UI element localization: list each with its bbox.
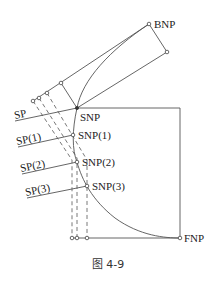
- sp1-label: SP(1): [15, 130, 43, 148]
- connector-line: [61, 83, 77, 108]
- bottom-point-2: [75, 236, 79, 240]
- snp3-label: SNP(3): [92, 180, 125, 193]
- bottom-point-1: [70, 236, 74, 240]
- upper-point-3: [45, 91, 49, 95]
- bnp-point: [147, 22, 151, 26]
- snp1-label: SNP(1): [78, 129, 111, 142]
- snp2-label: SNP(2): [82, 156, 115, 169]
- sp2-label: SP(2): [19, 157, 47, 175]
- shoulder-lower-line: [77, 52, 167, 108]
- neckline-construction-diagram: BNP SNP SNP(1) SNP(2) SNP(3) FNP SP SP(1…: [0, 0, 217, 281]
- fnp-label: FNP: [184, 232, 204, 244]
- snp-label: SNP: [80, 111, 100, 123]
- snp1-point: [71, 133, 75, 137]
- bottom-point-3: [85, 236, 89, 240]
- upper-point-1: [31, 99, 35, 103]
- sp-label: SP: [13, 107, 27, 121]
- upper-point-4: [59, 81, 63, 85]
- upper-point-2: [37, 96, 41, 100]
- shoulder-upper-line: [33, 24, 149, 101]
- bnp-label: BNP: [154, 18, 175, 30]
- figure-caption: 图 4-9: [92, 258, 124, 271]
- snp2-point: [75, 160, 79, 164]
- snp3-point: [85, 184, 89, 188]
- snp-point: [75, 106, 78, 109]
- back-corner-point: [165, 50, 169, 54]
- front-neck-box: [70, 108, 180, 238]
- fnp-point: [178, 236, 182, 240]
